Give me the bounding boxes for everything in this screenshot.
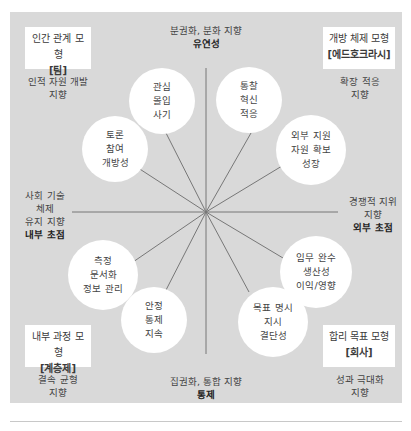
model-orientation-rational-goal: 성과 극대화 지향: [320, 373, 400, 399]
circle-insight: 통찰 혁신 적응: [216, 67, 282, 133]
model-box-open-system: 개방 체제 모형 [에드호크라시]: [323, 27, 395, 69]
bottom-divider: [10, 421, 402, 422]
circle-discussion: 토론 참여 개방성: [82, 116, 148, 182]
model-box-human-relations: 인간 관계 모형 [팀]: [25, 27, 91, 69]
circle-external-support: 외부 지원 자원 확보 성장: [276, 115, 346, 185]
circle-task: 임무 완수 생산성 이익/영향: [280, 236, 352, 308]
axis-bottom-label: 집권화, 통합 지향 통제: [146, 375, 266, 401]
circle-concern: 관심 몰입 사기: [129, 68, 195, 134]
axis-top-label: 분권화, 분화 지향 유연성: [146, 24, 266, 50]
axis-right-label: 경쟁적 지위 지향 외부 초점: [340, 195, 406, 234]
model-box-rational-goal: 합리 목표 모형 [회사]: [323, 325, 395, 367]
model-orientation-open-system: 확장 적응 지향: [320, 75, 400, 101]
circle-stability: 안정 통제 지속: [121, 287, 187, 353]
model-orientation-human-relations: 인적 자원 개발 지향: [18, 75, 98, 101]
model-orientation-internal-process: 결속 균형 지향: [18, 373, 98, 399]
axis-left-label: 사회 기술 체제 유지 지향 내부 초점: [14, 189, 76, 241]
model-box-internal-process: 내부 과정 모형 [계층제]: [25, 325, 91, 367]
